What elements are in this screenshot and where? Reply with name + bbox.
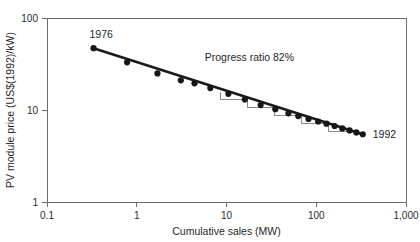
x-axis-title: Cumulative sales (MW) — [172, 225, 281, 237]
data-point — [360, 131, 366, 137]
data-point — [178, 77, 184, 83]
data-point — [272, 106, 278, 112]
y-axis-title: PV module price (US$(1992)/kW) — [4, 32, 16, 188]
data-point — [207, 85, 213, 91]
data-point — [315, 118, 321, 124]
x-axis-ticks — [47, 202, 406, 207]
x-tick-label-4: 1,000 — [393, 210, 418, 221]
end-year-label: 1992 — [373, 128, 397, 140]
data-point — [331, 123, 337, 129]
data-point — [191, 80, 197, 86]
data-point — [295, 113, 301, 119]
data-point — [225, 91, 231, 97]
start-year-label: 1976 — [90, 28, 114, 40]
plot-frame — [47, 18, 406, 202]
y-tick-label-2: 1 — [32, 197, 38, 208]
y-axis-ticks — [42, 18, 47, 202]
data-point — [242, 96, 248, 102]
y-axis-tick-labels: 100101 — [21, 13, 38, 208]
chart-figure: 0.11101001,000 100101 1976 1992 Progress… — [0, 0, 420, 242]
y-tick-label-1: 10 — [27, 105, 39, 116]
progress-ratio-label: Progress ratio 82% — [205, 51, 294, 63]
data-point — [346, 127, 352, 133]
x-tick-label-1: 1 — [134, 210, 140, 221]
x-axis-tick-labels: 0.11101001,000 — [40, 210, 419, 221]
data-point — [124, 59, 130, 65]
data-point — [323, 121, 329, 127]
x-tick-label-0: 0.1 — [40, 210, 54, 221]
data-point — [353, 129, 359, 135]
experience-curve-chart: 0.11101001,000 100101 1976 1992 Progress… — [0, 0, 420, 242]
y-tick-label-0: 100 — [21, 13, 38, 24]
x-tick-label-2: 10 — [221, 210, 233, 221]
x-tick-label-3: 100 — [308, 210, 325, 221]
data-point — [154, 70, 160, 76]
data-point — [285, 110, 291, 116]
data-point — [258, 102, 264, 108]
data-point — [90, 45, 96, 51]
data-point — [305, 116, 311, 122]
data-point — [339, 125, 345, 131]
plot-frame-border — [47, 18, 406, 202]
